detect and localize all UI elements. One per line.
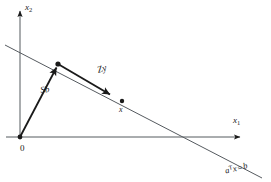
sb-vector-arrow xyxy=(20,68,57,138)
sb-vector-label: Sb xyxy=(41,86,50,95)
x-axis-label-subscript: 1 xyxy=(237,119,240,126)
origin-label: 0 xyxy=(20,144,25,153)
constraint-line xyxy=(5,45,262,178)
zy-vector-label-text: Zy xyxy=(96,64,108,76)
vector-decomposition-figure: x2 x1 0 Sb Zy x aTx=b xyxy=(0,0,271,182)
y-axis-label: x2 xyxy=(25,3,32,13)
sb-vector-label-text: Sb xyxy=(40,85,50,95)
y-axis-label-subscript: 2 xyxy=(29,6,32,13)
solution-point-label: x xyxy=(119,106,123,114)
constraint-line-label: aTx=b xyxy=(226,166,249,175)
x-axis-label: x1 xyxy=(233,116,240,126)
solution-point-dot xyxy=(120,99,124,103)
sb-endpoint-dot xyxy=(55,61,60,66)
zy-vector-label: Zy xyxy=(99,66,109,76)
origin-dot xyxy=(18,135,23,140)
axis-group xyxy=(6,11,240,137)
